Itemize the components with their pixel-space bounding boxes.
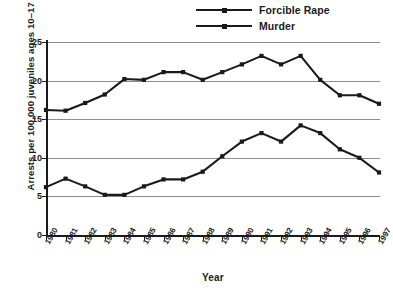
data-point-marker <box>83 101 87 105</box>
line-chart-figure: Forcible Rape Murder Arrests per 100,000… <box>0 0 393 288</box>
y-axis-line <box>46 40 48 237</box>
data-point-marker <box>181 70 185 74</box>
data-point-marker <box>142 184 146 188</box>
data-point-marker <box>161 70 165 74</box>
data-point-marker <box>318 78 322 82</box>
data-point-marker <box>142 78 146 82</box>
y-tick-label: 25 <box>20 38 42 47</box>
data-point-marker <box>259 54 263 58</box>
data-point-marker <box>338 147 342 151</box>
legend-label-forcible-rape: Forcible Rape <box>252 4 330 16</box>
legend-item-murder: Murder <box>196 18 386 34</box>
data-point-marker <box>201 78 205 82</box>
data-point-marker <box>377 170 381 174</box>
data-point-marker <box>377 102 381 106</box>
legend-line-marker-icon <box>196 20 252 32</box>
data-point-marker <box>338 93 342 97</box>
data-point-marker <box>181 177 185 181</box>
legend-item-forcible-rape: Forcible Rape <box>196 2 386 18</box>
x-axis-title: Year <box>46 272 380 283</box>
series-line <box>46 125 379 194</box>
data-point-marker <box>161 177 165 181</box>
data-point-marker <box>357 156 361 160</box>
data-point-marker <box>83 184 87 188</box>
data-point-marker <box>220 154 224 158</box>
data-point-marker <box>357 93 361 97</box>
data-point-marker <box>240 139 244 143</box>
data-point-marker <box>201 170 205 174</box>
data-point-marker <box>103 92 107 96</box>
legend-line-marker-icon <box>196 4 252 16</box>
y-tick-label: 15 <box>20 115 42 124</box>
y-axis-tick-labels: 0510152025 <box>18 42 42 235</box>
data-point-marker <box>220 70 224 74</box>
data-point-marker <box>279 139 283 143</box>
plot-area <box>46 42 380 235</box>
legend-label-murder: Murder <box>252 20 295 32</box>
data-point-marker <box>103 193 107 197</box>
data-point-marker <box>122 193 126 197</box>
chart-legend: Forcible Rape Murder <box>196 2 386 34</box>
data-point-marker <box>240 62 244 66</box>
y-tick-label: 10 <box>20 153 42 162</box>
y-tick-label: 20 <box>20 76 42 85</box>
y-tick-label: 5 <box>20 192 42 201</box>
data-point-marker <box>279 62 283 66</box>
data-point-marker <box>259 131 263 135</box>
data-point-marker <box>122 77 126 81</box>
data-point-marker <box>299 54 303 58</box>
series-line <box>46 56 379 111</box>
data-point-marker <box>318 131 322 135</box>
data-point-marker <box>63 109 67 113</box>
series-lines <box>46 42 380 235</box>
y-tick-label: 0 <box>20 231 42 240</box>
data-point-marker <box>299 123 303 127</box>
data-point-marker <box>63 177 67 181</box>
